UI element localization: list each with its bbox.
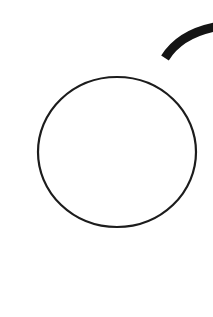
thick-arc-stroke: [165, 27, 213, 58]
circle-outline: [38, 77, 196, 227]
drawing-svg: [0, 0, 213, 317]
drawing-canvas: [0, 0, 213, 317]
